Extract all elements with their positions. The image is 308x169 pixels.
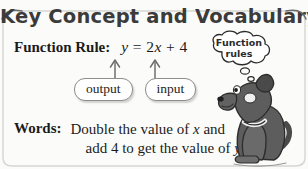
equation-variable: x xyxy=(154,38,161,55)
words-line1-variable: x xyxy=(193,121,200,137)
swoosh-right-icon xyxy=(282,2,308,32)
output-callout[interactable]: output xyxy=(74,78,133,101)
input-callout[interactable]: input xyxy=(145,78,197,101)
dog-illustration: Function rules xyxy=(204,30,300,168)
words-line1-a: Double the value of xyxy=(71,121,193,137)
page-title: Key Concept and Vocabulary xyxy=(0,2,308,32)
function-rule-equation: y = 2x + 4 xyxy=(121,38,187,56)
thought-line-1: Function xyxy=(216,37,262,48)
key-concept-vocabulary-card: Key Concept and Vocabulary Function Rule… xyxy=(0,0,308,169)
callout-group: output input xyxy=(74,78,196,101)
function-rule-label: Function Rule: xyxy=(14,39,110,56)
equation-constant: 4 xyxy=(179,38,187,55)
equation-eq-sign: = xyxy=(133,38,142,55)
words-label: Words: xyxy=(14,120,62,137)
dog-icon xyxy=(217,75,289,167)
equation-plus-sign: + xyxy=(166,38,175,55)
function-rule-row: Function Rule: y = 2x + 4 xyxy=(14,38,188,56)
equation-lhs: y xyxy=(121,38,128,55)
thought-bubble-icon: Function rules xyxy=(213,31,269,81)
thought-line-2: rules xyxy=(226,48,253,59)
